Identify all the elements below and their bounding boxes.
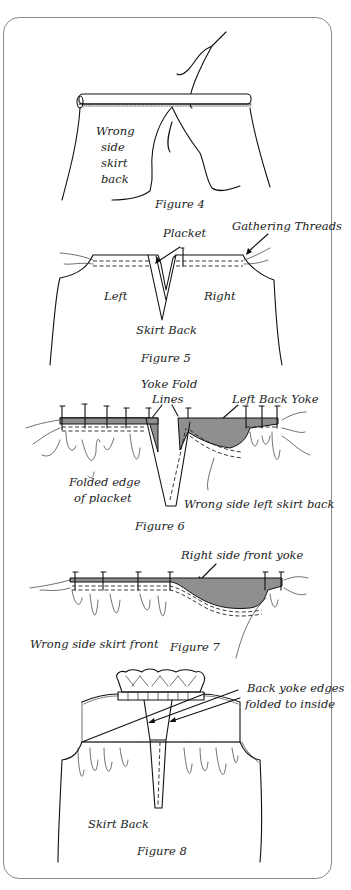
skirt-left-edge: [62, 108, 80, 200]
label-folded-edge-1: Folded edge: [68, 475, 141, 489]
label-wrong-2: side: [101, 140, 125, 154]
gathers-left: [66, 432, 140, 478]
label-wrong-side-front: Wrong side skirt front: [30, 637, 159, 651]
label-yoke-fold-2: Lines: [151, 392, 184, 406]
skirt-back-outline: [50, 255, 282, 365]
label-yoke-fold-1: Yoke Fold: [141, 377, 197, 391]
hand: [112, 107, 240, 200]
sewing-diagram: Wrong side skirt back Figure 4 Gathering…: [0, 0, 351, 890]
waistband-roll: [79, 94, 251, 104]
gathers-right: [250, 432, 280, 460]
left-back-yoke: [178, 418, 278, 450]
label-wrong-1: Wrong: [96, 124, 135, 138]
label-skirt-back-8: Skirt Back: [88, 817, 149, 831]
label-placket: Placket: [162, 226, 206, 240]
label-left-back-yoke: Left Back Yoke: [231, 392, 319, 406]
label-wrong-side-left: Wrong side left skirt back: [184, 497, 335, 511]
label-back-yoke-1: Back yoke edges: [246, 681, 345, 695]
figure-5-caption: Figure 5: [140, 351, 191, 365]
figure-8-caption: Figure 8: [136, 844, 187, 858]
figure-6: Yoke Fold Lines Left Back Yoke: [26, 377, 335, 533]
front-yoke: [70, 578, 282, 609]
figure-4: Wrong side skirt back Figure 4: [62, 32, 270, 211]
figure-7-caption: Figure 7: [169, 640, 220, 654]
figure-8: Back yoke edges folded to inside Skirt B…: [58, 669, 345, 862]
figure-6-caption: Figure 6: [134, 519, 185, 533]
label-wrong-4: back: [101, 172, 129, 186]
label-right-side-front-yoke: Right side front yoke: [180, 548, 304, 562]
label-back-yoke-2: folded to inside: [244, 697, 335, 711]
figure-5: Gathering Threads Placket Left Right Ski…: [50, 219, 342, 365]
label-left: Left: [103, 289, 128, 303]
label-wrong-3: skirt: [101, 156, 128, 170]
label-folded-edge-2: of placket: [74, 491, 132, 505]
gathering-arrow: [248, 234, 268, 252]
figure-7: Right side front yoke Wrong side skirt f…: [30, 548, 308, 658]
label-gathering-threads: Gathering Threads: [232, 219, 342, 233]
gathers-8: [78, 748, 238, 776]
figure-4-caption: Figure 4: [154, 197, 205, 211]
skirt-right-edge: [250, 108, 270, 187]
label-right: Right: [203, 289, 236, 303]
label-skirt-back-5: Skirt Back: [136, 323, 197, 337]
